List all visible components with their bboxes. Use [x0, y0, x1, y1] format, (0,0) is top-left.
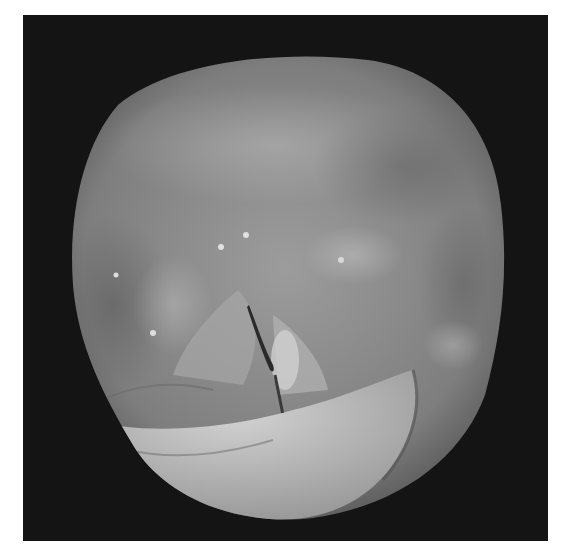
scope-circle: [23, 15, 548, 541]
endoscopic-view: [23, 15, 548, 541]
image-frame: [23, 15, 548, 541]
